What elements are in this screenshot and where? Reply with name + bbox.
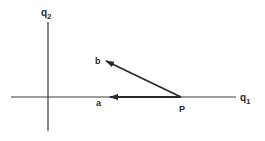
vector-b-label: b [95,56,101,66]
diagram-svg: q2 q1 P a b [0,0,265,141]
point-p-label: P [179,104,185,114]
vector-diagram: q2 q1 P a b [0,0,265,141]
q1-axis-label: q1 [240,92,251,106]
vector-a-label: a [96,98,102,108]
vector-b-arrow [106,61,181,97]
q2-axis-label: q2 [41,7,52,21]
